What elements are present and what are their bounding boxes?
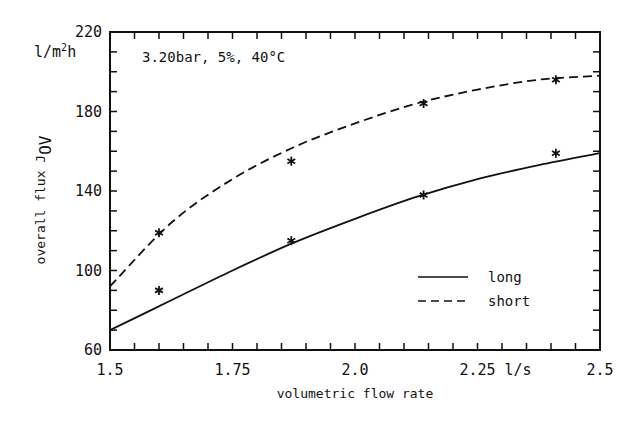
x-axis-title: volumetric flow rate bbox=[277, 386, 434, 401]
y-tick-label: 140 bbox=[75, 182, 102, 200]
data-markers bbox=[155, 75, 560, 295]
legend: long short bbox=[418, 269, 530, 309]
y-unit-prefix: l/m bbox=[34, 43, 61, 61]
y-axis-title-main: overall flux J bbox=[33, 155, 48, 265]
x-unit-label: l/s bbox=[504, 361, 531, 379]
flux-chart: 1.51.752.02.252.560100140180220 3.20bar,… bbox=[0, 0, 638, 423]
asterisk-marker-short bbox=[287, 157, 295, 166]
x-tick-label: 2.25 bbox=[459, 361, 495, 379]
y-axis-title-subscript: OV bbox=[36, 135, 55, 155]
legend-label-long: long bbox=[488, 269, 522, 285]
y-tick-label: 220 bbox=[75, 23, 102, 41]
y-tick-label: 60 bbox=[84, 341, 102, 359]
y-axis-title-text: overall flux JOV bbox=[33, 135, 55, 264]
asterisk-marker-short bbox=[420, 99, 428, 108]
y-tick-label: 100 bbox=[75, 262, 102, 280]
legend-label-short: short bbox=[488, 293, 530, 309]
y-tick-label: 180 bbox=[75, 103, 102, 121]
x-tick-label: 2.0 bbox=[341, 361, 368, 379]
x-tick-label: 1.75 bbox=[214, 361, 250, 379]
x-tick-label: 2.5 bbox=[586, 361, 613, 379]
asterisk-marker-long bbox=[552, 149, 560, 158]
x-tick-label: 1.5 bbox=[96, 361, 123, 379]
y-axis-title: overall flux JOV bbox=[33, 135, 55, 264]
condition-annotation: 3.20bar, 5%, 40°C bbox=[142, 49, 285, 65]
y-unit-suffix: h bbox=[67, 43, 76, 61]
axis-tick-labels: 1.51.752.02.252.560100140180220 bbox=[75, 23, 614, 379]
fit-curves bbox=[110, 76, 600, 330]
asterisk-marker-long bbox=[155, 286, 163, 295]
y-unit-label: l/m2h bbox=[34, 42, 76, 61]
asterisk-marker-short bbox=[552, 75, 560, 84]
asterisk-marker-long bbox=[287, 236, 295, 245]
curve-short bbox=[110, 76, 600, 287]
